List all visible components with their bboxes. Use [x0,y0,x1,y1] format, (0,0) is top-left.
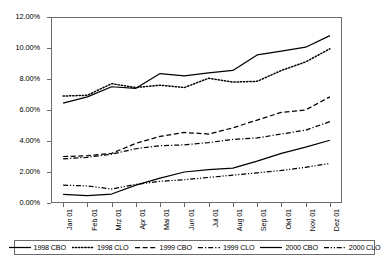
legend-label: 1998 CBO [34,244,66,251]
chart-container: 12.00%10.00%8.00%6.00%4.00%2.00%0.00% Ja… [0,0,389,263]
y-tick-label: 4.00% [20,137,40,144]
x-tick-label: Sep 01 [260,209,267,231]
x-tick-label: Jan 01 [66,209,73,230]
x-tick-label: Jul 01 [212,209,219,228]
legend-label: 1999 CLO [223,244,255,251]
chart-legend: 1998 CBO1998 CLO1999 CBO1999 CLO2000 CBO… [14,240,375,255]
x-tick-mark [63,203,64,207]
series-line-1998-cbo [63,36,330,103]
x-tick-mark [330,203,331,207]
y-axis: 12.00%10.00%8.00%6.00%4.00%2.00%0.00% [0,0,48,263]
x-tick-label: Mai 01 [163,209,170,230]
series-line-1999-clo [63,122,330,159]
legend-swatch-dotted-icon [72,244,94,251]
series-line-2000-clo [63,163,330,189]
legend-swatch-dashed-icon [135,244,157,251]
x-tick-label: Nov 01 [309,209,316,231]
x-tick-mark [112,203,113,207]
x-tick-mark [233,203,234,207]
legend-entry-1999-cbo[interactable]: 1999 CBO [132,244,195,251]
x-tick-label: Feb 01 [91,209,98,231]
legend-label: 2000 CLO [349,244,381,251]
x-tick-label: Dez 01 [333,209,340,231]
legend-entry-2000-clo[interactable]: 2000 CLO [321,244,384,251]
series-layer [51,17,342,203]
series-line-1999-cbo [63,97,330,157]
legend-label: 1998 CLO [97,244,129,251]
x-tick-mark [160,203,161,207]
series-line-1998-clo [63,49,330,96]
x-tick-label: Aug 01 [236,209,243,231]
y-tick-label: 12.00% [16,13,40,20]
x-tick-mark [184,203,185,207]
x-tick-label: Okt 01 [285,209,292,230]
x-tick-label: Apr 01 [139,209,146,230]
x-tick-label: Jun 01 [188,209,195,230]
x-tick-mark [209,203,210,207]
x-tick-mark [257,203,258,207]
legend-label: 1999 CBO [160,244,192,251]
y-tick-label: 8.00% [20,75,40,82]
y-tick-label: 10.00% [16,44,40,51]
y-tick-label: 6.00% [20,106,40,113]
legend-swatch-dash-dot-dot-icon [324,244,346,251]
legend-swatch-solid-icon [9,244,31,251]
x-tick-mark [306,203,307,207]
legend-swatch-dash-dot-icon [198,244,220,251]
x-tick-mark [87,203,88,207]
legend-swatch-solid-icon [260,244,282,251]
y-tick-label: 0.00% [20,199,40,206]
x-tick-label: Mrz 01 [115,209,122,230]
series-line-2000-cbo [63,140,330,195]
y-tick-label: 2.00% [20,168,40,175]
legend-label: 2000 CBO [285,244,317,251]
legend-entry-1998-clo[interactable]: 1998 CLO [69,244,132,251]
legend-entry-2000-cbo[interactable]: 2000 CBO [257,244,320,251]
legend-entry-1999-clo[interactable]: 1999 CLO [195,244,258,251]
x-tick-mark [281,203,282,207]
x-tick-mark [136,203,137,207]
legend-entry-1998-cbo[interactable]: 1998 CBO [6,244,69,251]
